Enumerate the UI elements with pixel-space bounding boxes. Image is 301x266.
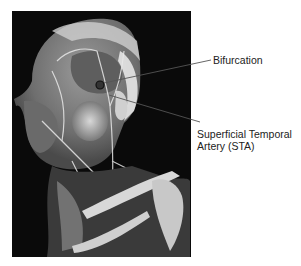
head-neck-illustration (12, 11, 191, 257)
sta-label: Superficial Temporal Artery (STA) (197, 128, 292, 152)
sta-label-line1: Superficial Temporal (197, 128, 292, 140)
bifurcation-label: Bifurcation (213, 54, 263, 66)
sta-label-line2: Artery (STA) (197, 140, 292, 152)
anatomy-figure (12, 11, 191, 257)
bifurcation-marker (96, 81, 104, 89)
